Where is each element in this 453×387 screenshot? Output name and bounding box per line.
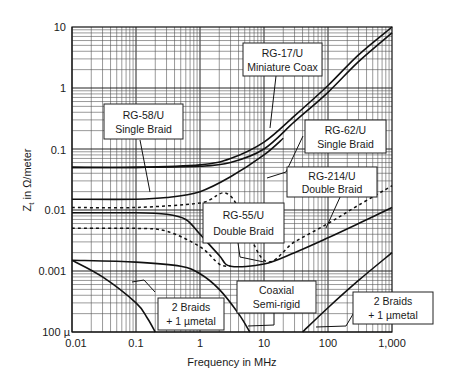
- transfer-impedance-chart: 10 1 0.1 0.01 0.001 100 µ 0.01 0.1 1 10 …: [0, 0, 453, 387]
- y-tick: 10: [54, 21, 66, 33]
- y-tick: 1: [60, 82, 66, 94]
- svg-text:+ 1 µmetal: + 1 µmetal: [368, 309, 418, 321]
- curve-rg-58-u-single-braid: [72, 138, 283, 199]
- callout-braids-right: 2 Braids + 1 µmetal: [353, 292, 433, 324]
- callout-rg62: RG-62/U Single Braid: [305, 120, 386, 153]
- x-tick: 1,000: [378, 337, 406, 349]
- callout-rg55: RG-55/U Double Braid: [203, 203, 284, 243]
- callout-rg58: RG-58/U Single Braid: [104, 104, 183, 139]
- callout-rg17: RG-17/U Miniature Coax: [243, 43, 322, 76]
- svg-text:Miniature Coax: Miniature Coax: [247, 61, 318, 73]
- x-tick: 10: [258, 337, 270, 349]
- svg-text:RG-55/U: RG-55/U: [223, 209, 264, 221]
- svg-text:Double Braid: Double Braid: [213, 225, 274, 237]
- y-axis-ticks: 10 1 0.1 0.01 0.001 100 µ: [38, 21, 70, 338]
- x-tick: 1: [197, 337, 203, 349]
- x-axis-ticks: 0.01 0.1 1 10 100 1,000: [65, 337, 405, 349]
- svg-text:RG-17/U: RG-17/U: [262, 47, 303, 59]
- svg-text:2 Braids: 2 Braids: [172, 301, 211, 313]
- x-tick: 0.01: [65, 337, 86, 349]
- callout-braids-left: 2 Braids + 1 µmetal: [158, 298, 224, 330]
- svg-text:Coaxial: Coaxial: [259, 284, 294, 296]
- chart-container: 10 1 0.1 0.01 0.001 100 µ 0.01 0.1 1 10 …: [0, 0, 453, 387]
- callout-rg214: RG-214/U Double Braid: [287, 167, 377, 197]
- y-tick: 0.01: [45, 204, 66, 216]
- y-tick: 0.001: [38, 265, 66, 277]
- svg-text:+ 1 µmetal: + 1 µmetal: [166, 315, 216, 327]
- svg-text:Single Braid: Single Braid: [115, 123, 172, 135]
- svg-text:Double Braid: Double Braid: [302, 183, 363, 195]
- svg-text:2 Braids: 2 Braids: [374, 295, 413, 307]
- svg-text:Single Braid: Single Braid: [317, 138, 374, 150]
- svg-text:RG-58/U: RG-58/U: [123, 109, 164, 121]
- callout-semirigid: Coaxial Semi-rigid: [237, 281, 316, 313]
- svg-text:Semi-rigid: Semi-rigid: [253, 298, 300, 310]
- y-axis-label: Zt in Ω/meter: [21, 148, 36, 211]
- svg-text:RG-62/U: RG-62/U: [325, 124, 366, 136]
- y-tick: 0.1: [51, 144, 66, 156]
- x-axis-label: Frequency in MHz: [187, 356, 276, 368]
- x-tick: 100: [319, 337, 337, 349]
- svg-text:RG-214/U: RG-214/U: [308, 170, 355, 182]
- x-tick: 0.1: [128, 337, 143, 349]
